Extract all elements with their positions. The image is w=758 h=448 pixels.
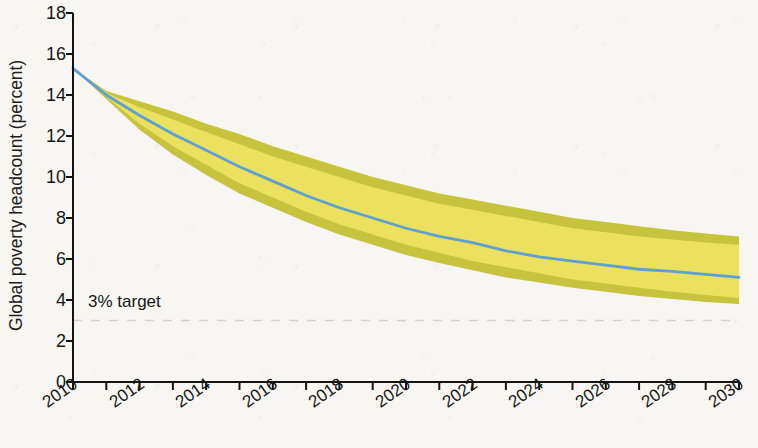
- plot-area: [0, 0, 758, 448]
- inner-band-shape: [73, 68, 739, 298]
- target-annotation-label: 3% target: [88, 292, 161, 312]
- poverty-projection-chart: Global poverty headcount (percent) 02468…: [0, 0, 758, 448]
- inner-uncertainty-band: [73, 68, 739, 298]
